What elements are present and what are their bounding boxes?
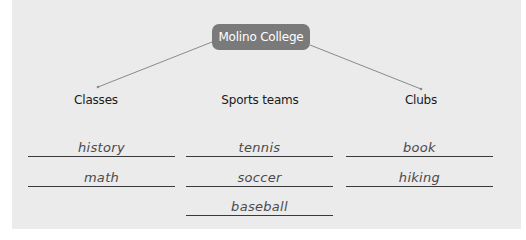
category-clubs: Clubs [405, 93, 437, 107]
answer-text: baseball [186, 199, 333, 214]
answer-line[interactable]: math [28, 164, 175, 187]
root-node: Molino College [212, 24, 310, 50]
connector-dot-classes [97, 86, 100, 89]
root-label: Molino College [218, 30, 303, 44]
answer-line[interactable]: book [346, 134, 493, 157]
answer-text: hiking [346, 170, 493, 185]
answer-line[interactable]: tennis [186, 134, 333, 157]
category-sports-teams: Sports teams [221, 93, 298, 107]
answer-line[interactable]: baseball [186, 193, 333, 216]
category-classes: Classes [74, 93, 118, 107]
answer-text: soccer [186, 170, 333, 185]
connector-clubs [310, 45, 421, 89]
answer-line[interactable]: soccer [186, 164, 333, 187]
answer-text: book [346, 140, 493, 155]
connector-classes [98, 42, 212, 87]
answer-line[interactable]: history [28, 134, 175, 157]
answer-text: history [28, 140, 175, 155]
answer-line[interactable]: hiking [346, 164, 493, 187]
answer-text: math [28, 170, 175, 185]
connector-dot-clubs [420, 88, 423, 91]
answer-text: tennis [186, 140, 333, 155]
